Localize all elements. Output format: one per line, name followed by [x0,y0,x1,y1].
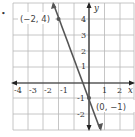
point-neg2-4 [57,17,61,21]
y-axis-label: y [93,3,99,13]
x-tick-labels: -4 -3 -2 -1 1 2 [14,86,122,95]
x-axis-label: x [128,85,133,95]
svg-text:3: 3 [81,31,86,40]
point-label-neg2-4: (−2, 4) [20,14,50,24]
svg-text:-3: -3 [29,86,37,95]
svg-text:-1: -1 [60,86,68,95]
y-axis [87,2,92,131]
svg-text:1: 1 [81,62,86,71]
point-0-neg1 [87,96,91,100]
svg-text:-2: -2 [77,110,85,119]
coordinate-plane: • y x -4 -3 -2 -1 1 2 4 3 2 1 -1 -2 [0,0,135,137]
svg-text:2: 2 [117,86,122,95]
svg-text:-2: -2 [44,86,52,95]
point-label-0-neg1: (0, −1) [96,102,126,112]
svg-text:2: 2 [81,47,86,56]
x-axis [11,81,135,86]
svg-text:4: 4 [81,15,86,24]
svg-text:-4: -4 [14,86,22,95]
svg-text:1: 1 [102,86,107,95]
bullet-marker: • [1,9,6,18]
svg-text:-1: -1 [77,94,85,103]
